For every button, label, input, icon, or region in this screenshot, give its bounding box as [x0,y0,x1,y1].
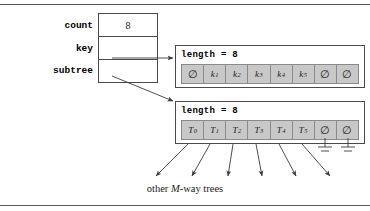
bottom-rule [0,205,370,206]
subtree-pointer-4 [279,144,296,176]
subtree-pointer-3 [256,144,262,176]
subtree-array-cell-2: T2 [225,120,248,140]
record-field-count: count 8 [99,14,157,37]
key-array-cell-0: ∅ [181,64,204,84]
subtree-pointer-0 [156,144,188,176]
subtree-array-box: length = 8 T0T1T2T3T4T5∅∅ [175,101,365,144]
record-field-subtree: subtree [99,60,157,82]
node-record-box: count 8 key subtree [98,13,158,83]
key-array-cell-1: k1 [203,64,226,84]
subtree-array-cell-1: T1 [203,120,226,140]
figure-m-way-tree-node: count 8 key subtree length = 8 ∅k1k2k3k4… [0,0,370,211]
key-array-cell-5: k5 [292,64,315,84]
caption-prefix: other [147,183,171,194]
subtree-array-cell-0: T0 [181,120,204,140]
subtree-pointer-2 [228,144,233,176]
caption-suffix: -way trees [180,183,223,194]
record-value-count: 8 [126,20,131,31]
subtree-array-cells: T0T1T2T3T4T5∅∅ [181,120,359,140]
record-field-key: key [99,37,157,60]
subtree-pointer-5 [302,144,330,176]
subtree-array-cell-7: ∅ [336,120,359,140]
key-array-box: length = 8 ∅k1k2k3k4k5∅∅ [175,45,365,88]
key-array-cell-7: ∅ [336,64,359,84]
subtree-array-cell-4: T4 [270,120,293,140]
record-label-count: count [64,14,93,37]
key-array-length-label: length = 8 [181,50,359,61]
key-array-cells: ∅k1k2k3k4k5∅∅ [181,64,359,84]
key-array-cell-6: ∅ [314,64,337,84]
record-label-key: key [76,37,93,60]
subtree-pointer-1 [192,144,210,176]
key-array-cell-2: k2 [225,64,248,84]
subtree-array-cell-6: ∅ [314,120,337,140]
top-rule [0,4,370,5]
subtree-array-length-label: length = 8 [181,106,359,117]
key-array-cell-4: k4 [270,64,293,84]
key-array-cell-3: k3 [247,64,270,84]
caption-emphasis: M [171,183,180,194]
figure-caption: other M-way trees [0,183,370,194]
subtree-array-cell-5: T5 [292,120,315,140]
record-label-subtree: subtree [53,60,93,82]
subtree-array-cell-3: T3 [247,120,270,140]
